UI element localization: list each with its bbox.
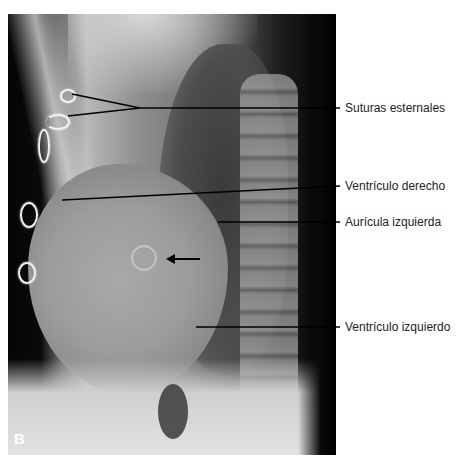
label-left-atrium: Aurícula izquierda: [345, 215, 441, 229]
arrow-head-icon: [166, 254, 175, 264]
label-sternal-sutures: Suturas esternales: [345, 101, 445, 115]
label-left-ventricle: Ventrículo izquierdo: [345, 320, 450, 334]
leader-line-sutures-upper: [72, 94, 140, 108]
label-right-ventricle: Ventrículo derecho: [345, 179, 445, 193]
leader-lines: [0, 0, 463, 469]
leader-line-sutures-lower: [68, 108, 140, 116]
leader-line-right-ventricle: [62, 186, 340, 200]
